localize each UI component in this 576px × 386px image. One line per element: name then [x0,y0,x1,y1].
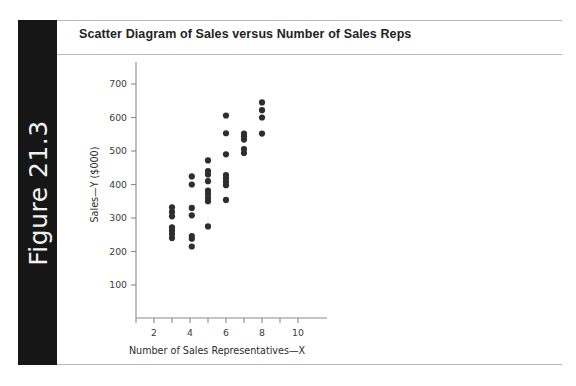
data-point [189,212,195,218]
y-axis-tick-label: 500 [109,145,127,156]
data-point [223,172,229,178]
y-axis-title: Sales—Y ($000) [89,147,100,223]
scatter-plot: 100200300400500600700246810Number of Sal… [57,56,562,362]
y-axis-tick-label: 100 [109,279,127,290]
data-point [223,197,229,203]
y-axis-tick-label: 400 [109,179,127,190]
data-point [259,99,265,105]
data-point [189,243,195,249]
x-axis-tick-label: 6 [223,327,229,338]
figure-number-label: Figure 21.3 [23,120,52,265]
data-point [259,107,265,113]
rule-bottom [57,364,562,365]
data-point [205,168,211,174]
data-point [169,204,175,210]
data-point [223,130,229,136]
data-point [169,224,175,230]
figure-number-bar: Figure 21.3 [18,20,57,365]
x-axis-tick-label: 8 [259,327,265,338]
data-point [189,173,195,179]
data-point [205,157,211,163]
data-point [223,151,229,157]
y-axis-tick-label: 200 [109,246,127,257]
rule-top [57,20,562,21]
data-point [241,146,247,152]
figure-page: Figure 21.3 Scatter Diagram of Sales ver… [0,0,576,386]
figure-title: Scatter Diagram of Sales versus Number o… [79,27,549,41]
x-axis-title: Number of Sales Representatives—X [129,345,306,356]
data-point [259,114,265,120]
scatter-chart-canvas: 100200300400500600700246810Number of Sal… [57,56,562,362]
data-point [241,130,247,136]
data-point [189,205,195,211]
x-axis-tick-label: 2 [151,327,157,338]
y-axis-tick-label: 600 [109,112,127,123]
data-point [205,178,211,184]
rule-under-title [57,54,562,55]
data-point [189,181,195,187]
data-point [223,112,229,118]
data-point-group [169,99,265,249]
data-point [259,130,265,136]
y-axis-tick-label: 700 [109,78,127,89]
x-axis-tick-label: 10 [292,327,304,338]
x-axis-tick-label: 4 [187,327,193,338]
y-axis-tick-label: 300 [109,212,127,223]
data-point [205,223,211,229]
data-point [189,233,195,239]
axis-lines [136,62,327,318]
data-point [205,187,211,193]
